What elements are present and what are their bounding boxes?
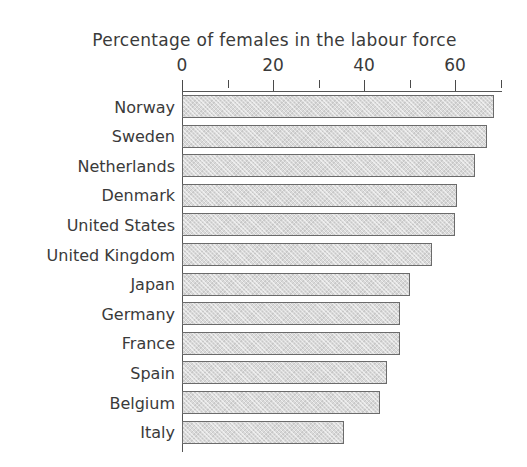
bar-row: Norway bbox=[0, 95, 527, 118]
bar-row: Netherlands bbox=[0, 154, 527, 177]
bar-category-label: Spain bbox=[130, 363, 175, 382]
bar-category-label: Denmark bbox=[101, 186, 175, 205]
bar-row: Sweden bbox=[0, 125, 527, 148]
bar-row: Japan bbox=[0, 273, 527, 296]
bar-category-label: Italy bbox=[140, 423, 175, 442]
bar-category-label: Japan bbox=[130, 275, 175, 294]
plot-area: NorwaySwedenNetherlandsDenmarkUnited Sta… bbox=[0, 0, 527, 467]
bar bbox=[182, 125, 487, 148]
bar-row: Spain bbox=[0, 361, 527, 384]
bar-category-label: United Kingdom bbox=[47, 245, 175, 264]
bar-row: Italy bbox=[0, 421, 527, 444]
bar bbox=[182, 391, 380, 414]
bar bbox=[182, 95, 494, 118]
bar-row: Germany bbox=[0, 302, 527, 325]
bar-category-label: Norway bbox=[114, 97, 175, 116]
bar-category-label: France bbox=[122, 334, 175, 353]
bar-category-label: Belgium bbox=[109, 393, 175, 412]
bar bbox=[182, 302, 400, 325]
bar-category-label: Germany bbox=[101, 304, 175, 323]
bar bbox=[182, 273, 410, 296]
bar-category-label: Netherlands bbox=[77, 156, 175, 175]
bar bbox=[182, 361, 387, 384]
bar bbox=[182, 184, 457, 207]
bar-row: United Kingdom bbox=[0, 243, 527, 266]
bar bbox=[182, 243, 432, 266]
bar-row: United States bbox=[0, 213, 527, 236]
bar-category-label: Sweden bbox=[112, 127, 175, 146]
bar bbox=[182, 213, 455, 236]
bar-row: Denmark bbox=[0, 184, 527, 207]
bar-row: France bbox=[0, 332, 527, 355]
bar-row: Belgium bbox=[0, 391, 527, 414]
bar-category-label: United States bbox=[67, 215, 175, 234]
bar-chart: Percentage of females in the labour forc… bbox=[0, 0, 527, 467]
bar bbox=[182, 332, 400, 355]
bar bbox=[182, 154, 475, 177]
bar bbox=[182, 421, 344, 444]
